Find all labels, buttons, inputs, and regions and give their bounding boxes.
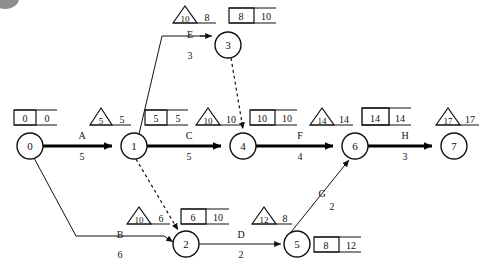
node-7-label: 7 [451,140,457,152]
triangle-marker-node-7-outer: 17 [465,114,475,125]
rectangle-marker-node-5-outer: 12 [346,240,356,251]
node-6[interactable]: 6 [342,133,368,159]
triangle-marker-node-1-inner: 5 [99,116,104,126]
rectangle-marker-node-0: 0 0 [14,110,57,125]
node-6-label: 6 [352,140,358,152]
activity-B-name: B [117,229,124,240]
activity-E-duration: 3 [188,50,193,61]
rectangle-marker-node-2-inner: 6 [191,212,196,223]
rectangle-marker-node-0-outer: 0 [45,113,50,124]
activity-G-name: G [318,188,325,199]
activity-A-duration: 5 [80,151,85,162]
triangle-marker-node-5-outer: 8 [283,213,288,224]
triangle-marker-node-7-inner: 17 [444,116,454,126]
node-4-label: 4 [240,140,246,152]
activity-A-name: A [78,130,86,141]
rectangle-marker-node-3-inner: 8 [239,11,244,22]
dummy-edges [136,58,243,230]
rectangle-marker-node-4-inner: 10 [257,113,267,124]
triangle-marker-node-6-inner: 14 [318,116,328,126]
triangle-marker-node-3: 10 8 [173,6,216,24]
triangle-marker-node-3-outer: 8 [205,12,210,23]
node-7[interactable]: 7 [441,133,467,159]
triangle-marker-node-5-inner: 12 [260,215,269,225]
network-diagram-canvas: 0 1 2 3 4 5 6 [0,0,485,268]
activity-F-name: F [297,130,303,141]
rectangle-marker-node-5: 8 12 [314,237,361,252]
rectangle-marker-node-6-outer: 14 [395,113,405,124]
triangle-marker-node-3-inner: 10 [181,14,191,24]
activity-H-duration: 3 [403,151,408,162]
node-3[interactable]: 3 [215,32,241,58]
node-0-label: 0 [27,140,33,152]
rectangle-marker-node-4: 10 10 [250,110,297,125]
rectangle-marker-node-4-outer: 10 [282,113,292,124]
triangle-marker-node-6: 14 14 [310,108,353,126]
triangle-marker-node-2-inner: 10 [135,215,145,225]
rectangle-marker-node-6: 14 14 [362,108,411,125]
triangle-marker-node-2-outer: 6 [159,213,164,224]
activity-E-name: E [187,29,193,40]
triangle-marker-node-4-inner: 10 [204,116,214,126]
node-2[interactable]: 2 [173,231,199,257]
rectangle-marker-node-1-outer: 5 [176,113,181,124]
node-2-label: 2 [183,238,189,250]
rectangle-marker-node-0-inner: 0 [23,113,28,124]
rectangle-time-markers: 0 0 5 5 6 10 [14,8,411,252]
node-1-label: 1 [131,140,137,152]
triangle-marker-node-5: 12 8 [252,207,292,225]
triangle-marker-node-1: 5 5 [90,108,131,126]
node-5-label: 5 [294,238,300,250]
rectangle-marker-node-3-outer: 10 [261,11,271,22]
edge-B-arrowhead [164,236,173,242]
rectangle-marker-node-2-outer: 10 [213,212,223,223]
node-0[interactable]: 0 [17,133,43,159]
triangle-marker-node-7: 17 17 [436,108,479,126]
rectangle-marker-node-2: 6 10 [181,209,229,224]
node-1[interactable]: 1 [121,133,147,159]
activity-C-name: C [186,130,193,141]
triangle-marker-node-1-outer: 5 [120,114,125,125]
rectangle-marker-node-5-inner: 8 [324,240,329,251]
activity-D-duration: 2 [239,249,244,260]
rectangle-marker-node-1: 5 5 [145,110,188,125]
node-5[interactable]: 5 [284,231,310,257]
node-3-label: 3 [225,39,231,51]
triangle-marker-node-2: 10 6 [127,207,170,225]
triangle-marker-node-4-outer: 10 [226,114,236,125]
node-4[interactable]: 4 [230,133,256,159]
activity-F-duration: 4 [298,151,303,162]
rectangle-marker-node-6-inner: 14 [370,113,380,124]
activity-C-duration: 5 [187,151,192,162]
network-diagram-svg: 0 1 2 3 4 5 6 [0,0,485,268]
activity-D-name: D [237,229,244,240]
activity-G-duration: 2 [330,201,335,212]
activity-B-duration: 6 [118,249,123,260]
activity-H-name: H [401,130,408,141]
rectangle-marker-node-1-inner: 5 [154,113,159,124]
triangle-marker-node-4: 10 10 [196,108,240,126]
triangle-marker-node-6-outer: 14 [339,114,349,125]
rectangle-marker-node-3: 8 10 [229,8,276,23]
